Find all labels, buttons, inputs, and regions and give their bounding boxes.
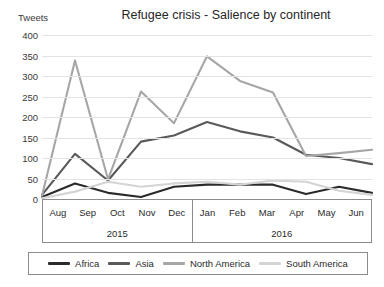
x-tick-aug-2015: Aug [43,207,73,218]
legend-swatch-asia [108,262,130,265]
x-axis-year-2015: 2015 [43,225,192,242]
chart-legend: AfricaAsiaNorth AmericaSouth America [28,252,368,275]
legend-item-south-america[interactable]: South America [259,258,348,269]
x-tick-feb-2016: Feb [222,207,252,218]
legend-label-asia: Asia [135,258,153,269]
x-tick-jun-2016: Jun [341,207,371,218]
gridline-400 [42,35,372,36]
legend-item-north-america[interactable]: North America [163,258,250,269]
series-line-north-america [42,56,372,195]
y-tick-100: 100 [4,153,38,164]
y-tick-200: 200 [4,112,38,123]
legend-swatch-north-america [163,262,185,265]
y-tick-300: 300 [4,71,38,82]
x-tick-nov-2015: Nov [132,207,162,218]
y-tick-400: 400 [4,30,38,41]
line-chart: Refugee crisis - Salience by continent T… [0,0,384,287]
y-tick-0: 0 [4,194,38,205]
gridline-50 [42,179,372,180]
y-tick-350: 350 [4,50,38,61]
chart-title: Refugee crisis - Salience by continent [96,8,356,22]
legend-label-africa: Africa [75,258,99,269]
year-group-2016: JanFebMarAprMayJun2016 [192,200,371,242]
x-tick-oct-2015: Oct [102,207,132,218]
x-axis-category-table: AugSepOctNovDec2015JanFebMarAprMayJun201… [42,199,372,243]
legend-label-north-america: North America [190,258,250,269]
legend-swatch-africa [48,262,70,265]
gridline-300 [42,76,372,77]
x-axis-year-2016: 2016 [193,225,371,242]
legend-label-south-america: South America [286,258,348,269]
gridline-200 [42,117,372,118]
x-tick-jan-2016: Jan [193,207,223,218]
year-group-2015: AugSepOctNovDec2015 [43,200,192,242]
y-tick-50: 50 [4,173,38,184]
y-tick-250: 250 [4,91,38,102]
month-row: JanFebMarAprMayJun [193,200,371,225]
gridline-100 [42,158,372,159]
y-tick-150: 150 [4,132,38,143]
legend-item-africa[interactable]: Africa [48,258,99,269]
month-row: AugSepOctNovDec [43,200,192,225]
legend-item-asia[interactable]: Asia [108,258,153,269]
x-tick-sep-2015: Sep [73,207,103,218]
x-tick-may-2016: May [312,207,342,218]
legend-swatch-south-america [259,262,281,265]
x-tick-dec-2015: Dec [162,207,192,218]
x-tick-mar-2016: Mar [252,207,282,218]
gridline-250 [42,97,372,98]
plot-area [42,35,372,199]
gridline-150 [42,138,372,139]
y-axis-tick-labels: 400350300250200150100500 [0,35,38,199]
gridline-350 [42,56,372,57]
y-axis-label: Tweets [18,12,48,23]
x-tick-apr-2016: Apr [282,207,312,218]
